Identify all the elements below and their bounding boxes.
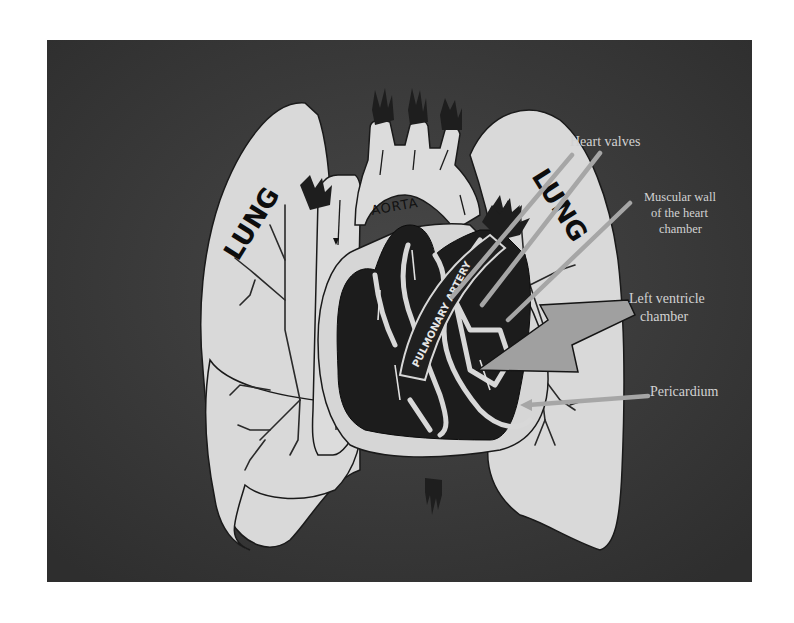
svg-text:Muscular wall: Muscular wall [644, 190, 716, 204]
pericardium-label: Pericardium [650, 384, 719, 399]
svg-text:of the heart: of the heart [651, 206, 708, 220]
svg-text:chamber: chamber [659, 222, 703, 236]
heart-valves-label: Heart valves [570, 134, 640, 149]
svg-text:chamber: chamber [640, 309, 689, 324]
svg-text:Left ventricle: Left ventricle [629, 291, 705, 306]
heart-lungs-diagram: PULMONARY ARTERY LUNG LUNG AORTA Heart v… [0, 0, 794, 623]
